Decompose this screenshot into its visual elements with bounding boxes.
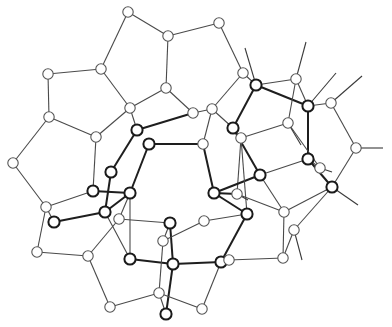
bond xyxy=(13,163,46,207)
molecular-cage-network xyxy=(0,0,392,327)
bond xyxy=(159,241,163,293)
bond xyxy=(283,212,284,258)
bond xyxy=(93,137,96,191)
bond xyxy=(130,144,149,193)
bond xyxy=(37,252,88,256)
atom-node xyxy=(279,207,289,217)
bond xyxy=(88,256,110,307)
atom-node xyxy=(326,98,336,108)
bond xyxy=(332,148,356,187)
bond xyxy=(229,258,283,260)
atom-node xyxy=(48,216,59,227)
atom-node xyxy=(163,31,173,41)
atom-node xyxy=(164,217,175,228)
atom-node xyxy=(198,139,208,149)
atom-node xyxy=(302,100,313,111)
atom-node xyxy=(167,258,178,269)
atom-node xyxy=(158,236,168,246)
bond xyxy=(137,113,193,130)
atom-node xyxy=(241,208,252,219)
atom-node xyxy=(254,169,265,180)
atom-node xyxy=(188,108,198,118)
bond xyxy=(88,219,119,256)
dangling-bonds-layer xyxy=(237,42,383,260)
dangling-bond xyxy=(331,76,362,103)
atom-node xyxy=(123,7,133,17)
atom-node xyxy=(238,68,248,78)
atom-node xyxy=(105,166,116,177)
bond xyxy=(237,138,241,194)
atom-node xyxy=(227,122,238,133)
atom-node xyxy=(41,202,51,212)
atom-node xyxy=(315,163,325,173)
atom-node xyxy=(154,288,164,298)
bond xyxy=(331,103,356,148)
atom-node xyxy=(99,206,110,217)
atom-node xyxy=(124,253,135,264)
bond xyxy=(260,159,308,175)
atom-node xyxy=(278,253,288,263)
atom-node xyxy=(236,133,246,143)
bond xyxy=(159,293,202,309)
bond xyxy=(13,117,49,163)
atom-node xyxy=(291,74,301,84)
atom-node xyxy=(214,18,224,28)
atom-node xyxy=(8,158,18,168)
atom-node xyxy=(124,187,135,198)
atom-node xyxy=(125,103,135,113)
atom-node xyxy=(91,132,101,142)
bond xyxy=(101,12,128,69)
atom-node xyxy=(105,302,115,312)
atom-node xyxy=(351,143,361,153)
atom-node xyxy=(250,79,261,90)
bond xyxy=(202,262,221,309)
atom-node xyxy=(44,112,54,122)
atom-node xyxy=(207,104,217,114)
atom-node xyxy=(32,247,42,257)
bond xyxy=(48,69,101,74)
bond xyxy=(110,293,159,307)
bond xyxy=(54,212,105,222)
bond xyxy=(37,207,46,252)
atom-node xyxy=(199,216,209,226)
bond xyxy=(128,12,168,36)
atoms-layer xyxy=(8,7,361,320)
bond xyxy=(219,23,243,73)
bond xyxy=(130,88,166,108)
bond xyxy=(96,108,130,137)
atom-node xyxy=(83,251,93,261)
bond xyxy=(49,117,96,137)
atom-node xyxy=(43,69,53,79)
atom-node xyxy=(302,153,313,164)
atom-node xyxy=(131,124,142,135)
bond xyxy=(284,187,332,212)
bond xyxy=(46,191,93,207)
bond xyxy=(260,175,284,212)
bond xyxy=(166,36,168,88)
bond xyxy=(203,144,214,193)
bond xyxy=(166,264,173,314)
atom-node xyxy=(197,304,207,314)
bond xyxy=(212,73,243,109)
bond xyxy=(119,219,170,223)
atom-node xyxy=(224,255,234,265)
atom-node xyxy=(143,138,154,149)
atom-node xyxy=(208,187,219,198)
bond xyxy=(48,74,49,117)
atom-node xyxy=(232,189,242,199)
atom-node xyxy=(96,64,106,74)
atom-node xyxy=(326,181,337,192)
atom-node xyxy=(283,118,293,128)
atom-node xyxy=(289,225,299,235)
bond xyxy=(101,69,130,108)
bond xyxy=(294,187,332,230)
atom-node xyxy=(114,214,124,224)
atom-node xyxy=(87,185,98,196)
bond xyxy=(173,262,221,264)
bond xyxy=(111,130,137,172)
bond xyxy=(221,214,247,262)
atom-node xyxy=(160,308,171,319)
structure-diagram xyxy=(0,0,392,327)
bond xyxy=(241,123,288,138)
atom-node xyxy=(161,83,171,93)
